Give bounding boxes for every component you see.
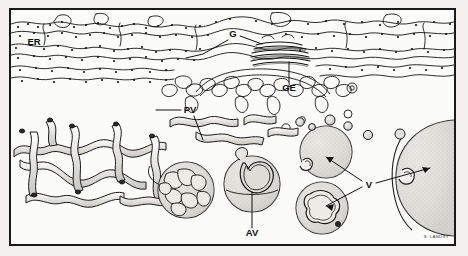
- vesicle-cluster-lower: [296, 182, 348, 234]
- label-ge: GE: [282, 82, 296, 93]
- organelle-diagram: ER G GE PV AV V S. LANDRY: [0, 0, 468, 256]
- label-v: V: [366, 179, 373, 190]
- label-er: ER: [27, 36, 40, 47]
- artist-credit: S. LANDRY: [424, 234, 449, 239]
- vesicle-cluster-upper: [300, 126, 352, 178]
- figure-root: ER G GE PV AV V S. LANDRY: [0, 0, 468, 256]
- label-g: G: [229, 28, 236, 39]
- label-av: AV: [246, 227, 259, 238]
- label-pv: PV: [184, 104, 197, 115]
